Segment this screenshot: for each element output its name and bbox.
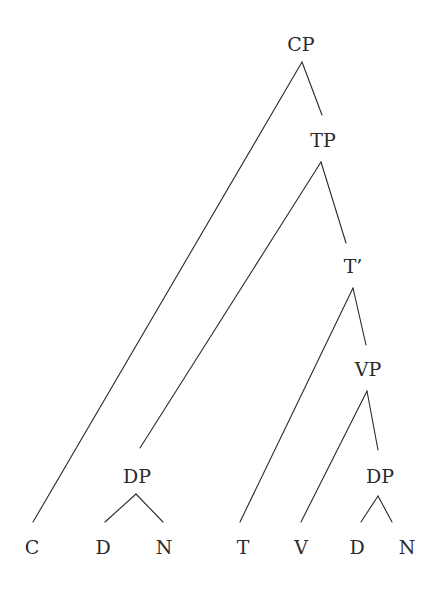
node-cp: CP	[287, 35, 314, 54]
leaf-t: T	[237, 538, 250, 557]
edge-vp-dp_object	[367, 391, 378, 450]
leaf-c: C	[25, 538, 40, 557]
leaf-d-subject: D	[95, 538, 110, 557]
edge-cp-tp	[302, 62, 322, 115]
leaf-n-subject: N	[156, 538, 173, 557]
edge-tbar-vp	[353, 288, 366, 345]
leaf-v: V	[294, 538, 308, 557]
edge-dp_subject-d_subject	[105, 494, 136, 522]
edge-cp-c	[33, 62, 302, 522]
edge-tp-tbar	[321, 162, 346, 243]
node-tp: TP	[310, 131, 335, 150]
edge-dp_object-n_object	[378, 496, 392, 522]
leaf-d-object: D	[349, 538, 364, 557]
edge-tp-dp_subject	[140, 162, 321, 448]
tree-edges	[0, 0, 432, 591]
edge-dp_subject-n_subject	[136, 494, 163, 522]
node-dp-subject: DP	[123, 467, 151, 486]
edge-vp-v	[301, 391, 367, 522]
edge-dp_object-d_object	[361, 496, 378, 522]
node-vp: VP	[355, 360, 382, 379]
edge-tbar-t	[240, 288, 353, 522]
leaf-n-object: N	[399, 538, 416, 557]
node-t-bar: T’	[344, 257, 363, 276]
node-dp-object: DP	[366, 467, 394, 486]
